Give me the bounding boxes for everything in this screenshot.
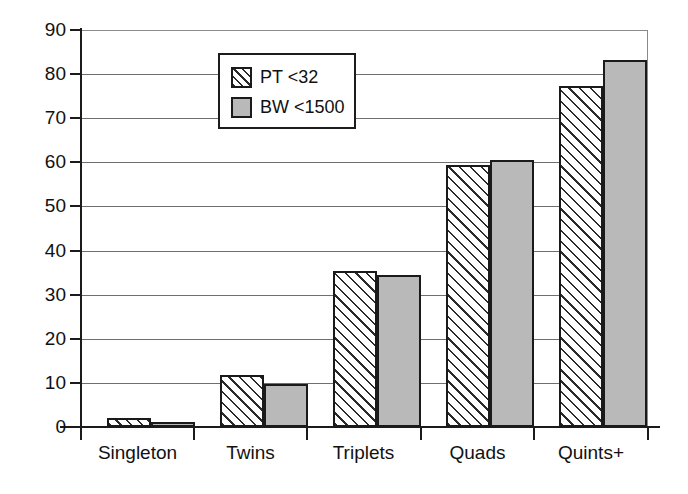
x-label-quads: Quads	[421, 443, 534, 463]
y-tick-10	[70, 382, 81, 384]
y-tick-40	[70, 250, 81, 252]
plot-frame-right	[647, 30, 648, 427]
hatched-swatch-icon	[231, 67, 252, 88]
y-tick-label-60: 60	[22, 152, 66, 171]
plot-area	[81, 30, 648, 427]
bar-pt-quads	[446, 165, 490, 427]
y-tick-60	[70, 161, 81, 163]
y-tick-label-70: 70	[22, 108, 66, 127]
x-tick-5	[647, 427, 649, 440]
y-tick-90	[70, 29, 81, 31]
legend-item-bw: BW <1500	[231, 92, 354, 122]
bar-pt-quints	[559, 86, 603, 427]
bar-bw-quads	[490, 160, 534, 427]
x-label-triplets: Triplets	[307, 443, 420, 463]
x-label-twins: Twins	[194, 443, 307, 463]
y-tick-30	[70, 294, 81, 296]
y-tick-70	[70, 117, 81, 119]
y-axis-line	[80, 28, 82, 429]
y-tick-label-20: 20	[22, 329, 66, 348]
y-tick-label-10: 10	[22, 373, 66, 392]
y-tick-80	[70, 73, 81, 75]
x-tick-1	[193, 427, 195, 440]
gridline-80	[81, 74, 648, 75]
bar-pt-triplets	[333, 271, 377, 427]
y-axis-tick-labels: 90 80 70 60 50 40 30 20 10 0	[0, 0, 66, 494]
gridline-90	[81, 30, 648, 31]
y-tick-label-30: 30	[22, 285, 66, 304]
x-label-quints: Quints+	[534, 443, 648, 463]
y-tick-label-40: 40	[22, 241, 66, 260]
y-tick-20	[70, 338, 81, 340]
bar-chart-figure: 90 80 70 60 50 40 30 20 10 0 Singleton T…	[0, 0, 688, 494]
x-tick-2	[306, 427, 308, 440]
y-tick-label-80: 80	[22, 64, 66, 83]
x-tick-0	[80, 427, 82, 440]
x-tick-3	[420, 427, 422, 440]
legend-label-bw: BW <1500	[260, 97, 345, 118]
legend-label-pt: PT <32	[260, 67, 318, 88]
x-label-singleton: Singleton	[81, 443, 194, 463]
x-tick-4	[533, 427, 535, 440]
y-tick-label-50: 50	[22, 196, 66, 215]
y-tick-50	[70, 205, 81, 207]
bar-bw-quints	[603, 60, 647, 427]
y-tick-label-0: 0	[22, 417, 66, 436]
bar-bw-triplets	[377, 275, 421, 427]
bar-bw-twins	[264, 384, 308, 427]
y-tick-label-90: 90	[22, 20, 66, 39]
legend-item-pt: PT <32	[231, 62, 354, 92]
chart-legend: PT <32 BW <1500	[218, 53, 356, 129]
gray-swatch-icon	[231, 97, 252, 118]
bar-pt-twins	[220, 375, 264, 427]
x-axis-line	[60, 426, 660, 428]
